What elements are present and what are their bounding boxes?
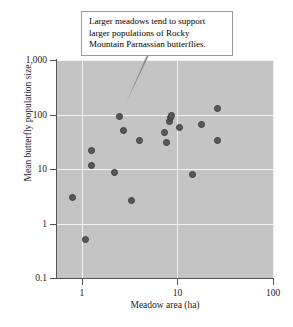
- x-tick-label-10: 10: [157, 288, 197, 298]
- y-tick-label-0.1: 0.1: [3, 273, 47, 283]
- data-point: [189, 171, 196, 178]
- data-point: [120, 127, 127, 134]
- callout-annotation: Larger meadows tend to support larger po…: [81, 11, 233, 56]
- data-point: [111, 169, 118, 176]
- x-axis-label-text: Meadow area (ha): [130, 300, 199, 310]
- x-axis-line: [56, 278, 274, 279]
- data-point: [198, 121, 205, 128]
- data-point: [168, 112, 175, 119]
- gridline-y-1,000: [57, 60, 273, 61]
- callout-line-1: Larger meadows tend to support: [89, 16, 226, 28]
- data-point: [88, 147, 95, 154]
- data-point: [161, 129, 168, 136]
- data-point: [176, 124, 183, 131]
- x-tick-label-1: 1: [62, 288, 102, 298]
- y-tick-0.1: [50, 278, 57, 279]
- scatter-plot-figure: 1,0001001010.1 110100 Mean butterfly pop…: [0, 0, 293, 327]
- data-point: [136, 137, 143, 144]
- x-axis-label: Meadow area (ha): [57, 300, 273, 310]
- gridline-y-10: [57, 169, 273, 170]
- data-point: [214, 105, 221, 112]
- x-tick-1: [82, 278, 83, 285]
- data-point: [128, 197, 135, 204]
- data-point: [88, 162, 95, 169]
- data-point: [116, 113, 123, 120]
- callout-leader-line: [126, 55, 150, 103]
- y-tick-1,000: [50, 60, 57, 61]
- x-tick-10: [177, 278, 178, 285]
- y-tick-10: [50, 169, 57, 170]
- data-point: [69, 194, 76, 201]
- y-axis-label-text: Mean butterfly population size: [23, 65, 33, 182]
- gridline-x-100: [273, 60, 274, 278]
- data-point: [163, 139, 170, 146]
- data-point: [82, 236, 89, 243]
- plot-area: [57, 60, 273, 278]
- callout-line-2: larger populations of Rocky: [89, 28, 226, 40]
- gridline-y-1: [57, 224, 273, 225]
- x-tick-label-100: 100: [253, 288, 293, 298]
- gridline-y-100: [57, 115, 273, 116]
- y-axis-label: Mean butterfly population size: [23, 43, 33, 203]
- y-tick-1: [50, 224, 57, 225]
- data-point: [214, 137, 221, 144]
- y-tick-label-1: 1: [3, 219, 47, 229]
- callout-line-3: Mountain Parnassian butterflies.: [89, 39, 226, 51]
- y-tick-100: [50, 115, 57, 116]
- x-tick-100: [273, 278, 274, 285]
